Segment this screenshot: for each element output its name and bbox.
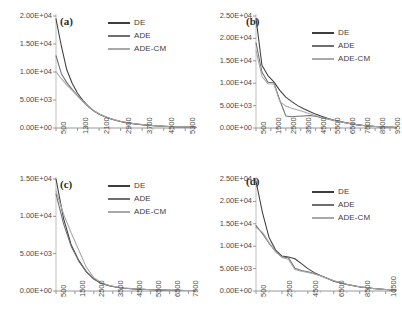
- y-tick-label: 0.00E+00: [204, 286, 252, 295]
- legend-item-de: DE: [108, 16, 166, 29]
- x-tick-label: 500: [259, 121, 268, 134]
- legend-swatch-icon: [108, 211, 130, 213]
- legend-item-ade-cm: ADE-CM: [312, 211, 370, 224]
- legend-item-de: DE: [312, 26, 370, 39]
- x-tick-label: 4500: [311, 280, 320, 297]
- legend-swatch-icon: [108, 35, 130, 37]
- legend-swatch-icon: [312, 191, 334, 193]
- legend-swatch-icon: [108, 198, 130, 200]
- x-tick-label: 4500: [135, 280, 144, 297]
- legend-item-de: DE: [108, 179, 166, 192]
- legend-item-ade-cm: ADE-CM: [108, 42, 166, 55]
- y-tick-label: 2.00E+04: [204, 196, 252, 205]
- y-tick-label: 0.00E+00: [4, 286, 52, 295]
- x-tick-label: 5500: [154, 280, 163, 297]
- legend-label: ADE-CM: [338, 213, 370, 222]
- legend-item-ade-cm: ADE-CM: [312, 52, 370, 65]
- y-tick-label: 2.00E+04: [204, 33, 252, 42]
- legend-item-ade: ADE: [108, 29, 166, 42]
- legend-label: DE: [134, 18, 145, 27]
- y-tick-label: 1.50E+04: [204, 219, 252, 228]
- legend-item-ade: ADE: [312, 39, 370, 52]
- y-tick-label: 2.00E+04: [4, 11, 52, 20]
- legend-label: ADE: [338, 200, 355, 209]
- y-tick-label: 1.50E+04: [4, 174, 52, 183]
- y-tick-label: 1.50E+04: [4, 39, 52, 48]
- legend-item-ade: ADE: [312, 198, 370, 211]
- legend-swatch-icon: [312, 204, 334, 206]
- legend-label: ADE: [134, 194, 151, 203]
- legend-swatch-icon: [312, 217, 334, 219]
- series-line-ade: [256, 226, 396, 290]
- x-tick-label: 3500: [116, 280, 125, 297]
- x-tick-label: 6500: [348, 117, 357, 134]
- x-tick-label: 1500: [78, 280, 87, 297]
- legend-swatch-icon: [312, 45, 334, 47]
- y-tick-label: 1.50E+04: [204, 56, 252, 65]
- y-tick-label: 5.00E+03: [4, 95, 52, 104]
- x-tick-label: 5300: [188, 117, 197, 134]
- y-tick-label: 0.00E+00: [4, 123, 52, 132]
- legend-label: ADE-CM: [134, 44, 166, 53]
- legend-a: DEADEADE-CM: [108, 16, 166, 55]
- x-tick-label: 3500: [304, 117, 313, 134]
- y-tick-label: 5.00E+03: [4, 249, 52, 258]
- panel-label-c: (c): [60, 178, 72, 190]
- legend-label: ADE-CM: [134, 207, 166, 216]
- legend-d: DEADEADE-CM: [312, 185, 370, 224]
- y-tick-label: 5.00E+03: [204, 101, 252, 110]
- legend-item-ade-cm: ADE-CM: [108, 205, 166, 218]
- legend-label: DE: [338, 28, 349, 37]
- x-tick-label: 2500: [285, 280, 294, 297]
- x-tick-label: 2100: [102, 117, 111, 134]
- panel-c: (c) DEADEADE-CM 0.00E+005.00E+031.00E+04…: [0, 163, 200, 326]
- legend-swatch-icon: [108, 185, 130, 187]
- legend-item-ade: ADE: [108, 192, 166, 205]
- x-tick-label: 2900: [124, 117, 133, 134]
- x-tick-label: 6500: [173, 280, 182, 297]
- panel-b: (b) DEADEADE-CM 0.00E+005.00E+031.00E+04…: [200, 0, 400, 163]
- x-tick-label: 500: [259, 284, 268, 297]
- legend-label: DE: [134, 181, 145, 190]
- series-line-ade-cm: [256, 227, 396, 290]
- legend-label: DE: [338, 187, 349, 196]
- x-tick-label: 2500: [289, 117, 298, 134]
- panel-a: (a) DEADEADE-CM 0.00E+005.00E+031.00E+04…: [0, 0, 200, 163]
- y-tick-label: 1.00E+04: [204, 78, 252, 87]
- x-tick-label: 6500: [337, 280, 346, 297]
- plot-a: [0, 0, 200, 163]
- legend-swatch-icon: [108, 22, 130, 24]
- y-tick-label: 0.00E+00: [204, 123, 252, 132]
- x-tick-label: 10500: [389, 276, 398, 297]
- x-tick-label: 1500: [274, 117, 283, 134]
- x-tick-label: 2500: [97, 280, 106, 297]
- legend-swatch-icon: [312, 32, 334, 34]
- y-tick-label: 2.50E+04: [204, 174, 252, 183]
- y-tick-label: 2.50E+04: [204, 11, 252, 20]
- y-tick-label: 1.00E+04: [204, 241, 252, 250]
- x-tick-label: 1300: [81, 117, 90, 134]
- legend-b: DEADEADE-CM: [312, 26, 370, 65]
- legend-label: ADE: [338, 41, 355, 50]
- legend-label: ADE: [134, 31, 151, 40]
- legend-swatch-icon: [108, 48, 130, 50]
- x-tick-label: 500: [59, 121, 68, 134]
- x-tick-label: 4500: [167, 117, 176, 134]
- x-tick-label: 4500: [319, 117, 328, 134]
- plot-c: [0, 163, 200, 326]
- legend-item-de: DE: [312, 185, 370, 198]
- x-tick-label: 8500: [363, 280, 372, 297]
- legend-swatch-icon: [312, 58, 334, 60]
- x-tick-label: 3700: [145, 117, 154, 134]
- x-tick-label: 8500: [378, 117, 387, 134]
- y-tick-label: 5.00E+03: [204, 264, 252, 273]
- x-tick-label: 9500: [393, 117, 402, 134]
- legend-label: ADE-CM: [338, 54, 370, 63]
- x-tick-label: 5500: [333, 117, 342, 134]
- panel-d: (d) DEADEADE-CM 0.00E+005.00E+031.00E+04…: [200, 163, 400, 326]
- legend-c: DEADEADE-CM: [108, 179, 166, 218]
- y-tick-label: 1.00E+04: [4, 67, 52, 76]
- y-tick-label: 1.00E+04: [4, 211, 52, 220]
- x-tick-label: 7500: [363, 117, 372, 134]
